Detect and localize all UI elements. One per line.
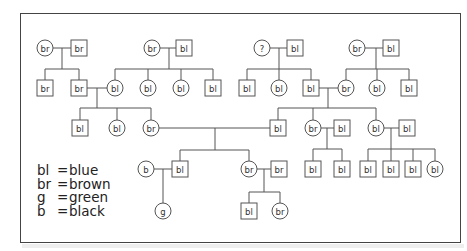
male-individual-g1b: br [71, 40, 87, 56]
female-individual-g1e: ? [254, 40, 270, 56]
eye-color-label: br [309, 124, 318, 134]
male-individual-g4i: bl [405, 161, 421, 177]
male-individual-g4f: bl [334, 161, 350, 177]
eye-color-label: bl [431, 165, 439, 175]
male-individual-g3h: bl [399, 120, 415, 136]
male-individual-g3a: bl [72, 120, 88, 136]
eye-color-label: bl [180, 44, 188, 54]
eye-color-label: bl [373, 84, 381, 94]
eye-color-label: bl [176, 165, 184, 175]
female-individual-g2k: bl [369, 80, 385, 96]
eye-color-label: bl [364, 165, 372, 175]
eye-color-label: bl [144, 84, 152, 94]
female-individual-g1a: br [37, 40, 53, 56]
female-individual-g4a: b [138, 161, 154, 177]
male-individual-g2a: br [37, 80, 53, 96]
legend-key: b [37, 205, 57, 219]
eye-color-label: bl [409, 165, 417, 175]
male-individual-g5b: bl [241, 203, 257, 219]
eye-color-label: bl [111, 84, 119, 94]
legend-equals: = [57, 205, 69, 219]
male-individual-g4g: bl [360, 161, 376, 177]
eye-color-label: br [353, 44, 362, 54]
female-individual-g2c: bl [107, 80, 123, 96]
legend-item-black: b = black [37, 205, 111, 219]
eye-color-label: br [245, 165, 254, 175]
eye-color-label: br [276, 207, 285, 217]
eye-color-label: bl [291, 44, 299, 54]
eye-color-label: bl [245, 207, 253, 217]
eye-color-label: b [143, 165, 148, 175]
eye-color-label: br [41, 44, 50, 54]
female-individual-g1c: br [144, 40, 160, 56]
eye-color-label: br [75, 44, 84, 54]
eye-color-label: bl [403, 124, 411, 134]
male-individual-g1d: bl [176, 40, 192, 56]
male-individual-g2f: bl [205, 80, 221, 96]
female-individual-g3g: bl [368, 120, 384, 136]
eye-color-label: bl [387, 44, 395, 54]
eye-color-label: bl [113, 124, 121, 134]
eye-color-label: bl [177, 84, 185, 94]
eye-color-label: br [147, 124, 156, 134]
legend-value: black [69, 205, 105, 219]
eye-color-label: br [41, 84, 50, 94]
male-individual-g4b: bl [172, 161, 188, 177]
eye-color-label: bl [275, 84, 283, 94]
eye-color-label: bl [76, 124, 84, 134]
female-individual-g3c: br [143, 120, 159, 136]
male-individual-g2g: bl [239, 80, 255, 96]
female-individual-g2e: bl [173, 80, 189, 96]
eye-color-label: br [275, 165, 284, 175]
female-individual-g4j: bl [427, 161, 443, 177]
female-individual-g1g: br [349, 40, 365, 56]
eye-color-label: bl [387, 165, 395, 175]
eye-color-label: g [160, 207, 165, 217]
eye-color-label: bl [307, 84, 315, 94]
male-individual-g2l: bl [401, 80, 417, 96]
female-individual-g2h: bl [271, 80, 287, 96]
male-individual-g2b: br [71, 80, 87, 96]
eye-color-label: ? [260, 44, 265, 54]
eye-color-label: bl [405, 84, 413, 94]
female-individual-g5c: br [272, 203, 288, 219]
male-individual-g3d: bl [270, 120, 286, 136]
legend: bl = blue br = brown g = green b = black [37, 164, 111, 218]
male-individual-g3f: bl [334, 120, 350, 136]
male-individual-g2i: bl [303, 80, 319, 96]
female-individual-g4c: br [241, 161, 257, 177]
female-individual-g2j: br [338, 80, 354, 96]
male-individual-g4h: bl [383, 161, 399, 177]
eye-color-label: bl [243, 84, 251, 94]
eye-color-label: bl [338, 165, 346, 175]
female-individual-g2d: bl [140, 80, 156, 96]
eye-color-label: bl [338, 124, 346, 134]
eye-color-label: bl [309, 165, 317, 175]
male-individual-g4e: bl [305, 161, 321, 177]
eye-color-label: br [148, 44, 157, 54]
male-individual-g1h: bl [383, 40, 399, 56]
female-individual-g3b: bl [109, 120, 125, 136]
eye-color-label: bl [209, 84, 217, 94]
eye-color-label: br [342, 84, 351, 94]
male-individual-g4d: br [271, 161, 287, 177]
female-individual-g5a: g [155, 203, 171, 219]
eye-color-label: bl [274, 124, 282, 134]
eye-color-label: br [75, 84, 84, 94]
male-individual-g1f: bl [287, 40, 303, 56]
female-individual-g3e: br [305, 120, 321, 136]
eye-color-label: bl [372, 124, 380, 134]
